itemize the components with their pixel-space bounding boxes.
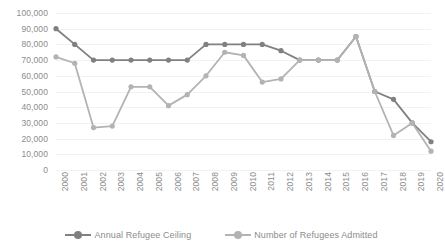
x-axis-tick-label: 2012 xyxy=(285,172,295,191)
data-point-marker xyxy=(110,58,115,63)
data-point-marker xyxy=(297,58,302,63)
data-point-marker xyxy=(260,42,265,47)
data-point-marker xyxy=(147,58,152,63)
y-axis-tick-label: 90,000 xyxy=(21,24,48,34)
data-point-marker xyxy=(410,120,415,125)
data-point-marker xyxy=(241,53,246,58)
data-point-marker xyxy=(128,84,133,89)
x-axis-tick-label: 2005 xyxy=(154,172,164,191)
data-point-marker xyxy=(428,149,433,154)
data-point-marker xyxy=(353,34,358,39)
data-point-marker xyxy=(72,61,77,66)
series-number-of-refugees-admitted xyxy=(53,34,433,154)
data-point-marker xyxy=(203,73,208,78)
y-axis-tick-label: 10,000 xyxy=(21,149,48,159)
legend-dot xyxy=(234,231,242,239)
legend-label: Annual Refugee Ceiling xyxy=(94,230,191,240)
x-axis-tick-label: 2019 xyxy=(416,172,426,191)
data-point-marker xyxy=(128,58,133,63)
data-point-marker xyxy=(222,42,227,47)
data-point-marker xyxy=(203,42,208,47)
gridline xyxy=(56,170,431,171)
x-axis-tick-label: 2013 xyxy=(304,172,314,191)
data-point-marker xyxy=(53,54,58,59)
data-point-marker xyxy=(241,42,246,47)
x-axis: 2000200120022003200420052006200720082009… xyxy=(56,172,431,216)
data-point-marker xyxy=(278,48,283,53)
x-axis-tick-label: 2004 xyxy=(135,172,145,191)
x-axis-tick-label: 2014 xyxy=(323,172,333,191)
x-axis-tick-label: 2000 xyxy=(60,172,70,191)
x-axis-tick-label: 2003 xyxy=(116,172,126,191)
x-axis-tick-label: 2017 xyxy=(379,172,389,191)
data-point-marker xyxy=(166,103,171,108)
legend-item-number-of-refugees-admitted[interactable]: Number of Refugees Admitted xyxy=(225,230,377,240)
y-axis-tick-label: 60,000 xyxy=(21,71,48,81)
data-point-marker xyxy=(166,58,171,63)
x-axis-tick-label: 2016 xyxy=(360,172,370,191)
x-axis-tick-label: 2006 xyxy=(173,172,183,191)
legend-item-annual-refugee-ceiling[interactable]: Annual Refugee Ceiling xyxy=(65,230,191,240)
data-point-marker xyxy=(316,58,321,63)
data-point-marker xyxy=(53,26,58,31)
x-axis-tick-label: 2015 xyxy=(341,172,351,191)
x-axis-tick-label: 2018 xyxy=(398,172,408,191)
legend-line-marker-icon xyxy=(225,230,251,240)
data-point-marker xyxy=(91,58,96,63)
legend-label: Number of Refugees Admitted xyxy=(254,230,377,240)
chart-legend: Annual Refugee Ceiling Number of Refugee… xyxy=(0,224,443,246)
data-point-marker xyxy=(185,92,190,97)
y-axis-tick-label: 80,000 xyxy=(21,39,48,49)
data-point-marker xyxy=(278,76,283,81)
y-axis-tick-label: 20,000 xyxy=(21,134,48,144)
y-axis: 010,00020,00030,00040,00050,00060,00070,… xyxy=(0,13,52,170)
plot-area xyxy=(56,13,431,170)
data-point-marker xyxy=(110,123,115,128)
x-axis-tick-label: 2002 xyxy=(98,172,108,191)
data-point-marker xyxy=(372,89,377,94)
x-axis-tick-label: 2001 xyxy=(79,172,89,191)
y-axis-tick-label: 50,000 xyxy=(21,87,48,97)
y-axis-tick-label: 40,000 xyxy=(21,102,48,112)
data-point-marker xyxy=(428,139,433,144)
data-point-marker xyxy=(335,58,340,63)
data-point-marker xyxy=(147,84,152,89)
data-point-marker xyxy=(91,125,96,130)
x-axis-tick-label: 2007 xyxy=(191,172,201,191)
legend-dot xyxy=(74,231,82,239)
data-point-marker xyxy=(185,58,190,63)
y-axis-tick-label: 100,000 xyxy=(17,8,48,18)
x-axis-tick-label: 2009 xyxy=(229,172,239,191)
x-axis-tick-label: 2011 xyxy=(266,172,276,191)
y-axis-tick-label: 0 xyxy=(43,165,48,175)
x-axis-tick-label: 2008 xyxy=(210,172,220,191)
y-axis-tick-label: 30,000 xyxy=(21,118,48,128)
data-point-marker xyxy=(391,133,396,138)
data-point-marker xyxy=(222,50,227,55)
x-axis-tick-label: 2010 xyxy=(248,172,258,191)
data-point-marker xyxy=(260,79,265,84)
series-layer xyxy=(56,13,431,170)
x-axis-tick-label: 2020 xyxy=(435,172,445,191)
y-axis-tick-label: 70,000 xyxy=(21,55,48,65)
data-point-marker xyxy=(72,42,77,47)
legend-line-marker-icon xyxy=(65,230,91,240)
data-point-marker xyxy=(391,97,396,102)
